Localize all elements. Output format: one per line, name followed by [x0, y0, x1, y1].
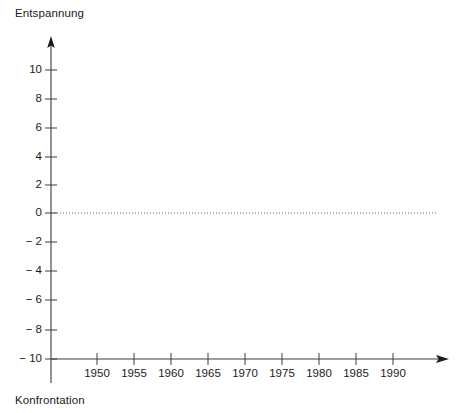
y-tick-label: 6	[8, 121, 42, 133]
y-tick-label: − 8	[8, 323, 42, 335]
y-tick-label: 10	[8, 63, 42, 75]
y-tick-label: 2	[8, 178, 42, 190]
x-tick-label: 1990	[371, 367, 415, 379]
y-tick-label: − 2	[8, 235, 42, 247]
y-tick-label: − 10	[8, 352, 42, 364]
y-tick-label: 0	[8, 206, 42, 218]
y-tick-label: − 4	[8, 264, 42, 276]
plot-area	[0, 0, 457, 413]
y-tick-label: 8	[8, 92, 42, 104]
y-tick-label: 4	[8, 150, 42, 162]
y-tick-label: − 6	[8, 293, 42, 305]
chart-container: Entspannung Konfrontation	[0, 0, 457, 413]
